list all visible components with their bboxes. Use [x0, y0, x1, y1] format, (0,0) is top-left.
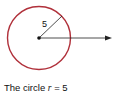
arrowhead-icon	[105, 36, 112, 41]
caption-prefix: The circle	[4, 82, 48, 93]
figure-caption: The circle r = 5	[4, 82, 68, 93]
origin-point	[37, 36, 41, 40]
radius-label: 5	[42, 19, 47, 29]
caption-suffix: = 5	[52, 82, 68, 93]
